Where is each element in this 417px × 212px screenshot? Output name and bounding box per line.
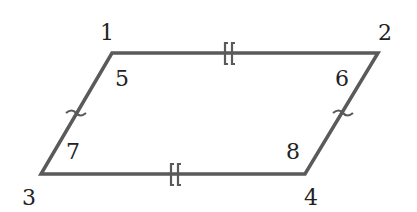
angle-label-8: 8 [286,139,300,164]
vertex-label-1: 1 [100,20,114,45]
vertex-label-2: 2 [378,20,392,45]
angle-label-5: 5 [115,66,129,91]
angle-label-7: 7 [66,139,80,164]
angle-label-6: 6 [335,66,349,91]
parallelogram-diagram: 1 2 3 4 5 6 7 8 [0,0,417,212]
vertex-label-3: 3 [22,185,36,210]
parallelogram-outline [41,53,378,174]
vertex-label-4: 4 [304,185,318,210]
